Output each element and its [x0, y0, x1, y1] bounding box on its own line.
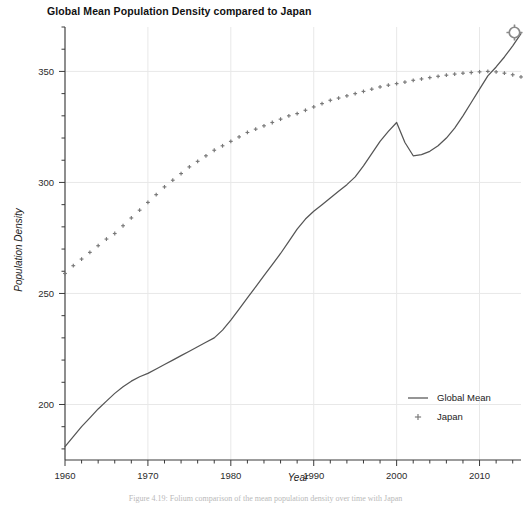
- data-point-marker: [287, 114, 291, 118]
- data-point-marker: [444, 73, 448, 77]
- data-point-marker: [403, 80, 407, 84]
- data-point-marker: [270, 121, 274, 125]
- data-point-marker: [411, 78, 415, 82]
- data-point-marker: [171, 178, 175, 182]
- data-point-marker: [386, 83, 390, 87]
- series-markers-japan: [63, 70, 523, 276]
- data-point-marker: [478, 70, 482, 74]
- data-point-marker: [254, 127, 258, 131]
- legend-entry-label: Global Mean: [437, 392, 491, 403]
- legend-entry[interactable]: Japan: [415, 411, 463, 422]
- data-point-marker: [80, 257, 84, 261]
- data-point-marker: [129, 216, 133, 220]
- data-point-marker: [362, 89, 366, 93]
- data-point-marker: [154, 193, 158, 197]
- data-point-marker: [246, 131, 250, 135]
- y-axis-tick-label: 350: [38, 66, 54, 77]
- data-point-marker: [486, 70, 490, 74]
- gear-icon[interactable]: [506, 24, 523, 41]
- legend-entry-label: Japan: [437, 411, 463, 422]
- data-point-marker: [88, 250, 92, 254]
- data-point-marker: [370, 87, 374, 91]
- data-point-marker: [453, 72, 457, 76]
- data-point-marker: [312, 105, 316, 109]
- chart-legend: Global MeanJapan: [408, 392, 491, 422]
- data-point-marker: [345, 94, 349, 98]
- data-point-marker: [262, 124, 266, 128]
- x-axis-tick-label: 2000: [386, 470, 407, 481]
- x-axis-tick-label: 1980: [220, 470, 241, 481]
- y-axis-tick-label: 250: [38, 288, 54, 299]
- data-point-marker: [138, 208, 142, 212]
- data-point-marker: [237, 135, 241, 139]
- data-point-marker: [121, 224, 125, 228]
- data-point-marker: [395, 82, 399, 86]
- data-point-marker: [229, 139, 233, 143]
- data-point-marker: [146, 201, 150, 205]
- data-point-marker: [353, 92, 357, 96]
- data-point-marker: [436, 74, 440, 78]
- data-point-marker: [378, 85, 382, 89]
- y-axis-title: Population Density: [13, 207, 24, 291]
- x-axis-title: Year: [288, 472, 309, 483]
- series-line-global-mean: [65, 34, 521, 447]
- data-point-marker: [295, 112, 299, 116]
- x-axis-tick-label: 1970: [137, 470, 158, 481]
- x-axis-tick-label: 2010: [469, 470, 490, 481]
- data-point-marker: [196, 159, 200, 163]
- data-point-marker: [179, 172, 183, 176]
- data-point-marker: [187, 165, 191, 169]
- data-point-marker: [320, 102, 324, 106]
- y-axis-tick-label: 300: [38, 177, 54, 188]
- data-point-marker: [519, 75, 523, 79]
- data-point-marker: [212, 148, 216, 152]
- chart-canvas: 200250300350196019701980199020002010 Glo…: [0, 0, 531, 506]
- figure-container: Global Mean Population Density compared …: [0, 0, 531, 506]
- data-point-marker: [420, 77, 424, 81]
- tick-labels-layer: 200250300350196019701980199020002010: [38, 66, 490, 481]
- figure-caption: Figure 4.19: Folium comparison of the me…: [0, 494, 531, 503]
- data-point-marker: [204, 154, 208, 158]
- data-point-marker: [96, 244, 100, 248]
- series-layer: [63, 34, 523, 447]
- data-point-marker: [428, 76, 432, 80]
- data-point-marker: [71, 264, 75, 268]
- data-point-marker: [494, 70, 498, 74]
- x-axis-tick-label: 1960: [54, 470, 75, 481]
- data-point-marker: [337, 96, 341, 100]
- data-point-marker: [279, 117, 283, 121]
- legend-entry[interactable]: Global Mean: [408, 392, 491, 403]
- data-point-marker: [328, 98, 332, 102]
- data-point-marker: [163, 185, 167, 189]
- y-axis-tick-label: 200: [38, 399, 54, 410]
- data-point-marker: [63, 272, 67, 276]
- data-point-marker: [304, 108, 308, 112]
- data-point-marker: [105, 237, 109, 241]
- data-point-marker: [113, 232, 117, 236]
- data-point-marker: [221, 144, 225, 148]
- data-point-marker: [511, 73, 515, 77]
